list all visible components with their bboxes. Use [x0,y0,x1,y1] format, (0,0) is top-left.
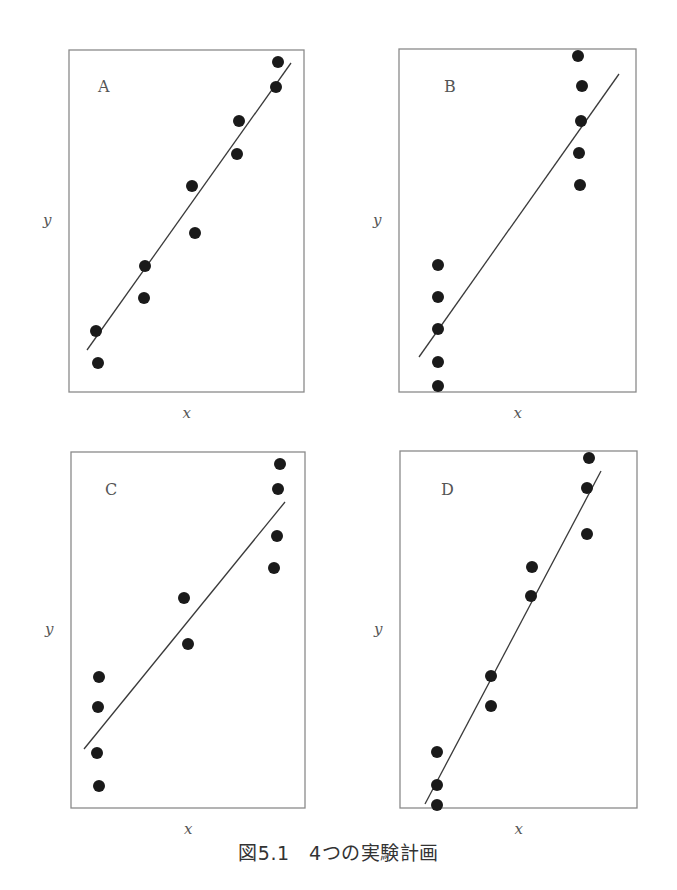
regression-line [425,471,601,804]
data-point [432,259,444,271]
x-axis-label: x [515,820,524,838]
figure-caption: 図5.1 4つの実験計画 [0,838,677,865]
regression-line [84,502,285,749]
data-point [575,115,587,127]
panel-label: D [441,480,454,499]
panel-label: C [105,480,117,499]
data-point [581,528,593,540]
regression-line [87,63,291,350]
y-axis-label: y [42,211,52,229]
data-point [271,530,283,542]
data-point [178,592,190,604]
data-point [572,50,584,62]
data-point [583,452,595,464]
data-point [91,747,103,759]
data-point [92,701,104,713]
data-point [272,56,284,68]
x-axis-label: x [183,404,192,422]
data-point [139,260,151,272]
panel-c: Cxy [44,452,305,838]
data-point [432,380,444,392]
data-point [485,700,497,712]
data-point [268,562,280,574]
x-axis-label: x [184,820,193,838]
data-point [431,799,443,811]
panel-label: B [444,77,456,96]
plot-frame [71,452,305,808]
y-axis-label: y [373,620,383,638]
data-point [90,325,102,337]
data-point [274,458,286,470]
data-point [270,81,282,93]
data-point [432,356,444,368]
figure-canvas: AxyBxyCxyDxy [0,0,677,890]
data-point [186,180,198,192]
data-point [93,671,105,683]
data-point [432,323,444,335]
regression-line [419,74,619,357]
panel-b: Bxy [372,49,636,422]
data-point [431,779,443,791]
data-point [573,147,585,159]
x-axis-label: x [514,404,523,422]
data-point [182,638,194,650]
data-point [231,148,243,160]
data-point [485,670,497,682]
data-point [525,590,537,602]
data-point [581,482,593,494]
data-point [189,227,201,239]
data-point [92,357,104,369]
panel-a: Axy [42,50,304,422]
panel-label: A [97,77,110,96]
data-point [93,780,105,792]
panel-d: Dxy [373,451,637,838]
data-point [432,291,444,303]
y-axis-label: y [44,620,54,638]
data-point [272,483,284,495]
data-point [233,115,245,127]
data-point [574,179,586,191]
data-point [431,746,443,758]
y-axis-label: y [372,211,382,229]
data-point [526,561,538,573]
data-point [576,80,588,92]
data-point [138,292,150,304]
plot-frame [69,50,304,392]
